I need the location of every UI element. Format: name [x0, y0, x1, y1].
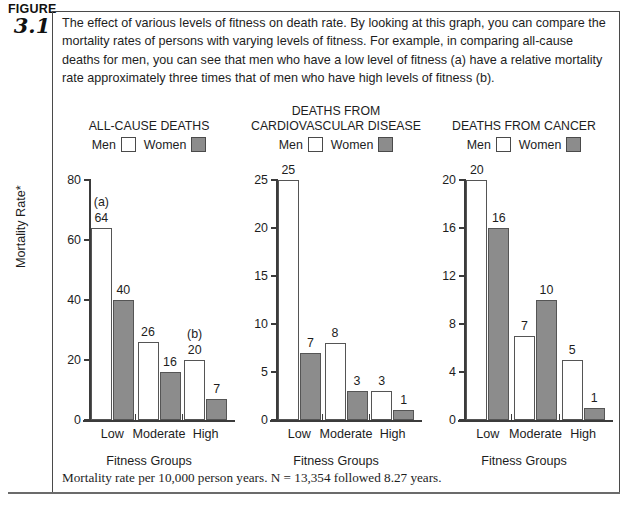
bar-men-moderate	[514, 336, 535, 420]
y-axis-tick	[84, 179, 91, 181]
chart-title-line: ALL-CAUSE DEATHS	[56, 119, 242, 134]
chart-title-line: CARDIOVASCULAR DISEASE	[242, 119, 430, 134]
chart-title: DEATHS FROM CANCER	[430, 119, 618, 134]
figure-number: 3.1	[8, 15, 56, 37]
x-axis-tick	[369, 414, 371, 421]
plot-area: 02040608064(a)40Low2616Moderate20(b)7Hig…	[56, 180, 242, 420]
bar-men-moderate	[325, 343, 346, 420]
bar-annotation: (a)	[94, 195, 109, 209]
y-axis-tick-label: 20	[56, 353, 81, 367]
legend-label-men: Men	[467, 138, 491, 152]
y-axis-tick-label: 15	[242, 269, 268, 283]
chart-title-line: DEATHS FROM	[242, 104, 430, 119]
y-axis-tick-label: 10	[242, 317, 268, 331]
y-axis-tick-label: 0	[430, 413, 456, 427]
legend-item-men: Men	[92, 137, 136, 152]
x-axis-category-label: Moderate	[132, 427, 185, 441]
chart-title: ALL-CAUSE DEATHS	[56, 119, 242, 134]
legend-label-men: Men	[92, 138, 116, 152]
chart-panel-2: DEATHS FROMCARDIOVASCULAR DISEASEMenWome…	[242, 104, 430, 474]
y-axis-tick-label: 40	[56, 293, 81, 307]
plot-area: 0510152025257Low83Moderate31High	[242, 180, 430, 420]
x-axis-category-label: Low	[288, 427, 311, 441]
bar-value-label: 26	[141, 325, 155, 339]
bar-value-label: 64	[94, 211, 108, 225]
y-axis-tick-label: 60	[56, 233, 81, 247]
y-axis-tick	[459, 179, 466, 181]
bar-men-low	[91, 228, 112, 420]
bar-men-low	[466, 180, 487, 420]
bar-women-high	[206, 399, 227, 420]
y-axis-tick	[459, 275, 466, 277]
bar-value-label: 7	[521, 319, 528, 333]
legend-item-men: Men	[467, 137, 511, 152]
x-axis-title: Fitness Groups	[56, 454, 242, 468]
bar-value-label: 7	[213, 382, 220, 396]
legend-item-men: Men	[279, 137, 323, 152]
bar-women-high	[584, 408, 605, 420]
bar-value-label: 20	[470, 163, 484, 177]
figure-number-block: FIGURE 3.1	[8, 2, 56, 37]
y-axis-tick-label: 0	[242, 413, 268, 427]
bar-value-label: 7	[307, 336, 314, 350]
legend-item-women: Women	[519, 137, 581, 152]
charts-container: ALL-CAUSE DEATHSMenWomen02040608064(a)40…	[56, 104, 618, 474]
legend-item-women: Women	[144, 137, 206, 152]
y-axis-tick	[459, 371, 466, 373]
y-axis-tick-label: 8	[430, 317, 456, 331]
bar-value-label: 1	[400, 393, 407, 407]
figure-caption: The effect of various levels of fitness …	[62, 14, 607, 88]
bar-value-label: 10	[540, 283, 554, 297]
chart-panel-3: DEATHS FROM CANCERMenWomen0481216202016L…	[430, 104, 618, 474]
y-axis-tick-label: 80	[56, 173, 81, 187]
y-axis-tick-label: 16	[430, 221, 456, 235]
x-axis-line	[458, 420, 613, 422]
bar-value-label: 5	[569, 343, 576, 357]
chart-title: DEATHS FROMCARDIOVASCULAR DISEASE	[242, 104, 430, 133]
y-axis-tick	[459, 323, 466, 325]
y-axis-tick-label: 4	[430, 365, 456, 379]
legend-swatch-women	[378, 137, 393, 152]
x-axis-category-label: Moderate	[509, 427, 562, 441]
y-axis-title: Mortality Rate*	[14, 185, 28, 268]
chart-title-line: DEATHS FROM CANCER	[430, 119, 618, 134]
figure-bottom-rule	[8, 492, 620, 494]
legend-swatch-men	[496, 137, 511, 152]
x-axis-category-label: High	[193, 427, 219, 441]
bar-annotation: (b)	[187, 327, 202, 341]
bar-value-label: 40	[116, 283, 130, 297]
bar-value-label: 3	[378, 374, 385, 388]
y-axis-tick-label: 0	[56, 413, 81, 427]
bar-men-high	[562, 360, 583, 420]
figure-footnote: Mortality rate per 10,000 person years. …	[62, 470, 442, 486]
bar-men-low	[278, 180, 299, 420]
y-axis-tick-label: 20	[430, 173, 456, 187]
x-axis-category-label: High	[380, 427, 406, 441]
y-axis-tick-label: 20	[242, 221, 268, 235]
chart-legend: MenWomen	[242, 137, 430, 152]
bar-value-label: 3	[354, 374, 361, 388]
x-axis-tick	[182, 414, 184, 421]
legend-item-women: Women	[331, 137, 393, 152]
bar-women-moderate	[536, 300, 557, 420]
x-axis-title: Fitness Groups	[242, 454, 430, 468]
bar-women-moderate	[160, 372, 181, 420]
bar-women-high	[393, 410, 414, 420]
chart-legend: MenWomen	[56, 137, 242, 152]
bar-women-low	[113, 300, 134, 420]
y-axis-tick-label: 5	[242, 365, 268, 379]
bar-value-label: 20	[188, 343, 202, 357]
legend-swatch-men	[308, 137, 323, 152]
bar-women-low	[300, 353, 321, 420]
x-axis-tick	[135, 414, 137, 421]
bar-value-label: 16	[492, 211, 506, 225]
x-axis-line	[270, 420, 422, 422]
bar-value-label: 8	[332, 326, 339, 340]
chart-panel-1: ALL-CAUSE DEATHSMenWomen02040608064(a)40…	[56, 104, 242, 474]
legend-label-women: Women	[331, 138, 373, 152]
x-axis-tick	[559, 414, 561, 421]
x-axis-category-label: High	[570, 427, 596, 441]
bar-men-moderate	[138, 342, 159, 420]
bar-value-label: 16	[163, 355, 177, 369]
bar-men-high	[184, 360, 205, 420]
